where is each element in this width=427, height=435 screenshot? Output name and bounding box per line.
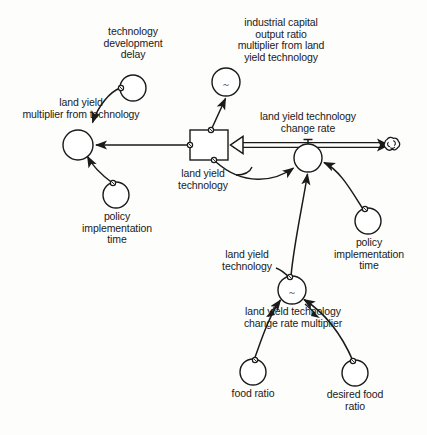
node-desired-food-ratio[interactable]	[342, 358, 368, 386]
connector-policy-left-to-land-yield-multiplier	[88, 157, 113, 184]
stock-land-yield-technology[interactable]	[190, 130, 228, 160]
label-land-yield-technology-stock: land yieldtechnology	[178, 168, 228, 191]
leader-line-aux-label	[276, 268, 289, 277]
label-industrial-capital-output-ratio-multiplier: industrial capitaloutput ratiomultiplier…	[238, 17, 325, 63]
node-land-yield-technology-change-rate-valve[interactable]	[294, 144, 322, 172]
connector-change-rate-multiplier-to-valve	[291, 174, 308, 276]
label-policy-implementation-time-left: policyimplementationtime	[82, 211, 152, 246]
node-food-ratio[interactable]	[240, 357, 266, 385]
nonlinear-function-marker-change-rate-multiplier: ~	[289, 286, 295, 298]
nonlinear-function-marker-industrial-capital: ~	[223, 78, 229, 90]
diagram-canvas	[0, 0, 427, 435]
sink-cloud-icon	[384, 137, 399, 150]
flow-arrowhead-into-stock	[231, 136, 244, 153]
label-food-ratio: food ratio	[232, 388, 275, 400]
system-dynamics-diagram: ~ ~ technologydevelopmentdelay industria…	[0, 0, 427, 435]
connector-policy-right-to-change-rate-valve	[324, 163, 363, 210]
label-land-yield-technology-aux: land yieldtechnology	[222, 249, 272, 272]
label-land-yield-technology-change-rate: land yield technologychange rate	[260, 111, 356, 134]
label-policy-implementation-time-right: policyimplementationtime	[334, 237, 404, 272]
label-technology-development-delay: technologydevelopmentdelay	[103, 26, 162, 61]
node-policy-implementation-time-right[interactable]	[355, 206, 381, 234]
connector-stock-to-industrial-capital-multiplier	[212, 99, 226, 129]
leader-line-stock-label	[236, 167, 252, 175]
node-land-yield-multiplier-from-technology[interactable]	[63, 130, 93, 160]
node-policy-implementation-time-left[interactable]	[103, 180, 129, 208]
label-land-yield-multiplier-from-technology: land yieldmultiplier from technology	[22, 97, 139, 120]
label-land-yield-technology-change-rate-multiplier: land yield technologychange rate multipl…	[244, 306, 342, 329]
label-desired-food-ratio: desired foodratio	[327, 389, 384, 412]
